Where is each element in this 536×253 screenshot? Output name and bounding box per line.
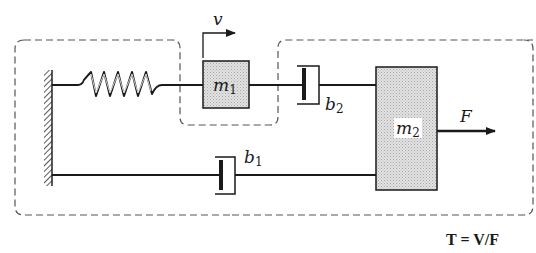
diagram-canvas: m1 v b2 b1 m2 F T = V/F [0, 0, 536, 253]
velocity-arrow [203, 33, 235, 58]
damper-b1-label: b1 [244, 147, 263, 169]
velocity-label: v [213, 9, 223, 29]
transfer-function-equation: T = V/F [446, 231, 499, 248]
ground-wall [44, 70, 52, 186]
force-label: F [459, 106, 473, 126]
spring-k [78, 72, 162, 96]
damper-b2-label: b2 [325, 94, 344, 116]
